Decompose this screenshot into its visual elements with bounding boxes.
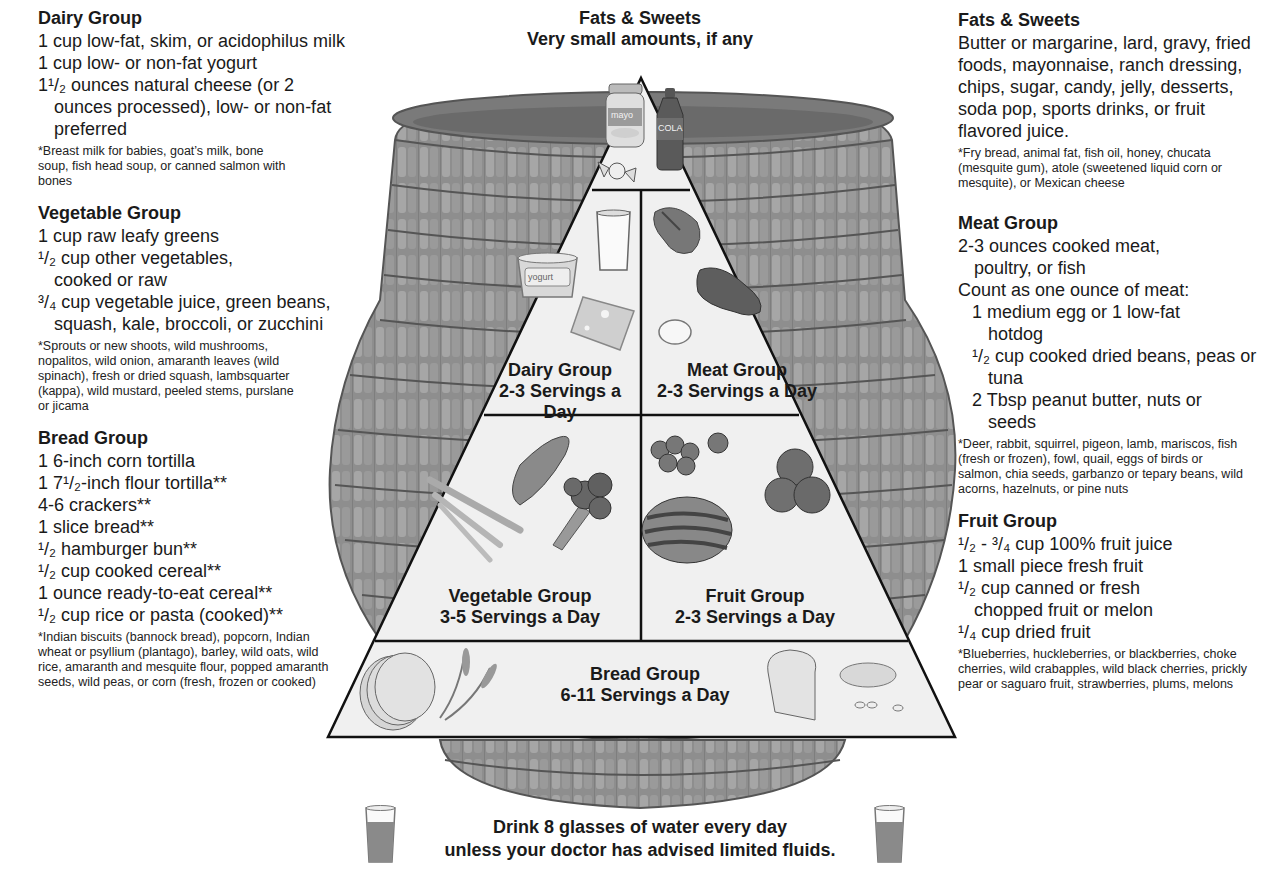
meat-item: Count as one ounce of meat: bbox=[958, 279, 1258, 301]
bread-item: ¹/₂ hamburger bun** bbox=[38, 538, 368, 560]
bread-item: ¹/₂ cup rice or pasta (cooked)** bbox=[38, 604, 368, 626]
tier-fruit-name: Fruit Group bbox=[650, 586, 860, 607]
tier-vegetable-name: Vegetable Group bbox=[420, 586, 620, 607]
bread-title: Bread Group bbox=[38, 428, 368, 449]
fats-sweets-header: Fats & Sweets Very small amounts, if any bbox=[440, 8, 840, 50]
vegetable-title: Vegetable Group bbox=[38, 203, 368, 224]
fruit-item: ¹/₄ cup dried fruit bbox=[958, 621, 1258, 643]
meat-note: *Deer, rabbit, squirrel, pigeon, lamb, m… bbox=[958, 437, 1243, 497]
mayo-jar-icon bbox=[606, 84, 644, 147]
tier-bread-name: Bread Group bbox=[530, 664, 760, 685]
bread-item: 1 7¹/₂-inch flour tortilla** bbox=[38, 472, 368, 494]
egg-icon bbox=[659, 320, 691, 344]
candy-icon bbox=[598, 162, 636, 182]
fats-body: Butter or margarine, lard, gravy, fried … bbox=[958, 32, 1258, 142]
left-column: Dairy Group 1 cup low-fat, skim, or acid… bbox=[38, 8, 368, 704]
bread-note: *Indian biscuits (bannock bread), popcor… bbox=[38, 630, 338, 690]
dairy-item: 1 cup low- or non-fat yogurt bbox=[38, 52, 368, 74]
meat-item: 2-3 ounces cooked meat, poultry, or fish bbox=[958, 235, 1204, 279]
broccoli-icon bbox=[553, 473, 612, 550]
bread-slice-icon bbox=[768, 650, 816, 720]
meat-subitem: 2 Tbsp peanut butter, nuts or seeds bbox=[958, 389, 1228, 433]
dairy-title: Dairy Group bbox=[38, 8, 368, 29]
fats-section: Fats & Sweets Butter or margarine, lard,… bbox=[958, 10, 1258, 191]
water-glass-left-icon bbox=[366, 806, 395, 863]
dairy-item: 1¹/₂ ounces natural cheese (or 2 ounces … bbox=[38, 74, 354, 140]
beans-icon bbox=[840, 663, 903, 711]
wheat-icon bbox=[440, 648, 499, 720]
mayo-label: mayo bbox=[611, 110, 633, 120]
dairy-item: 1 cup low-fat, skim, or acidophilus milk bbox=[38, 30, 368, 52]
meat-section: Meat Group 2-3 ounces cooked meat, poult… bbox=[958, 213, 1258, 497]
tortillas-icon bbox=[360, 653, 435, 730]
meat-subitem: 1 medium egg or 1 low-fat hotdog bbox=[958, 301, 1238, 345]
fats-note: *Fry bread, animal fat, fish oil, honey,… bbox=[958, 146, 1223, 191]
water-advice: Drink 8 glasses of water every day unles… bbox=[400, 816, 880, 862]
tier-meat-name: Meat Group bbox=[642, 360, 832, 381]
tier-meat-servings: 2-3 Servings a Day bbox=[642, 381, 832, 402]
right-column: Fats & Sweets Butter or margarine, lard,… bbox=[958, 10, 1258, 706]
cola-label: COLA bbox=[658, 123, 683, 133]
fruit-section: Fruit Group ¹/₂ - ³/₄ cup 100% fruit jui… bbox=[958, 511, 1258, 692]
fruit-item: ¹/₂ - ³/₄ cup 100% fruit juice bbox=[958, 533, 1258, 555]
pyramid-shape bbox=[328, 78, 955, 737]
fruit-note: *Blueberries, huckleberries, or blackber… bbox=[958, 647, 1258, 692]
squash-icon bbox=[513, 436, 570, 505]
bread-item: 1 6-inch corn tortilla bbox=[38, 450, 368, 472]
milk-glass-icon bbox=[597, 210, 630, 270]
bread-item: ¹/₂ cup cooked cereal** bbox=[38, 560, 368, 582]
tier-fruit: Fruit Group 2-3 Servings a Day bbox=[650, 586, 860, 628]
tier-dairy-servings: 2-3 Servings a Day bbox=[480, 381, 640, 423]
tier-vegetable: Vegetable Group 3-5 Servings a Day bbox=[420, 586, 620, 628]
cola-bottle-icon bbox=[657, 88, 683, 170]
yogurt-label: yogurt bbox=[528, 272, 553, 282]
vegetable-section: Vegetable Group 1 cup raw leafy greens ¹… bbox=[38, 203, 368, 414]
tier-meat: Meat Group 2-3 Servings a Day bbox=[642, 360, 832, 402]
water-advice-line1: Drink 8 glasses of water every day bbox=[400, 816, 880, 839]
carrots-icon bbox=[430, 480, 520, 560]
cheese-slice-icon bbox=[571, 297, 634, 350]
tier-fruit-servings: 2-3 Servings a Day bbox=[650, 607, 860, 628]
steak-icon bbox=[697, 268, 761, 315]
fats-sweets-subtitle: Very small amounts, if any bbox=[440, 29, 840, 50]
watermelon-icon bbox=[642, 497, 732, 563]
vegetable-item: 1 cup raw leafy greens bbox=[38, 225, 368, 247]
bread-item: 1 slice bread** bbox=[38, 516, 368, 538]
meat-subitem: ¹/₂ cup cooked dried beans, peas or tuna bbox=[958, 345, 1258, 389]
vegetable-item: ³/₄ cup vegetable juice, green beans, sq… bbox=[38, 291, 364, 335]
vegetable-note: *Sprouts or new shoots, wild mushrooms, … bbox=[38, 339, 298, 414]
fruit-title: Fruit Group bbox=[958, 511, 1258, 532]
yogurt-cup-icon bbox=[518, 253, 577, 297]
tier-vegetable-servings: 3-5 Servings a Day bbox=[420, 607, 620, 628]
meat-title: Meat Group bbox=[958, 213, 1258, 234]
bread-section: Bread Group 1 6-inch corn tortilla 1 7¹/… bbox=[38, 428, 368, 690]
fruit-item: 1 small piece fresh fruit bbox=[958, 555, 1258, 577]
peaches-icon bbox=[765, 449, 830, 513]
berries-icon bbox=[651, 433, 728, 475]
fruit-item: ¹/₂ cup canned or fresh chopped fruit or… bbox=[958, 577, 1204, 621]
tier-dairy: Dairy Group 2-3 Servings a Day bbox=[480, 360, 640, 423]
vegetable-item: ¹/₂ cup other vegetables, cooked or raw bbox=[38, 247, 284, 291]
bread-item: 1 ounce ready-to-eat cereal** bbox=[38, 582, 368, 604]
tier-bread-servings: 6-11 Servings a Day bbox=[530, 685, 760, 706]
dairy-section: Dairy Group 1 cup low-fat, skim, or acid… bbox=[38, 8, 368, 189]
bread-item: 4-6 crackers** bbox=[38, 494, 368, 516]
fats-sweets-title: Fats & Sweets bbox=[440, 8, 840, 29]
dairy-note: *Breast milk for babies, goat’s milk, bo… bbox=[38, 144, 288, 189]
fats-title: Fats & Sweets bbox=[958, 10, 1258, 31]
fish-steak-icon bbox=[654, 208, 700, 254]
basket-icon bbox=[330, 92, 956, 808]
tier-bread: Bread Group 6-11 Servings a Day bbox=[530, 664, 760, 706]
tier-dairy-name: Dairy Group bbox=[480, 360, 640, 381]
water-glass-right-icon bbox=[875, 806, 904, 863]
water-advice-line2: unless your doctor has advised limited f… bbox=[400, 839, 880, 862]
